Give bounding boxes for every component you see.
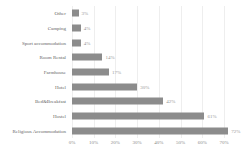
value-label: 14%	[105, 55, 114, 60]
value-label: 3%	[82, 11, 89, 16]
bar-row: 72%	[72, 123, 232, 138]
value-label: 61%	[207, 113, 216, 118]
x-tick-label: 20%	[111, 140, 120, 145]
bar	[72, 39, 81, 46]
bar-row: 30%	[72, 79, 232, 94]
bar	[72, 127, 228, 134]
bar-row: 17%	[72, 65, 232, 80]
category-label: Camping	[48, 26, 66, 31]
category-label: Room Rental	[39, 55, 66, 60]
bar-row: 4%	[72, 21, 232, 36]
bar-row: 4%	[72, 35, 232, 50]
bar	[72, 98, 163, 105]
bar-chart: 3%4%4%14%17%30%42%61%72% OtherCampingSpo…	[0, 0, 242, 161]
bar	[72, 83, 137, 90]
bar-row: 61%	[72, 109, 232, 124]
bar	[72, 54, 102, 61]
value-label: 30%	[140, 84, 149, 89]
category-label: Hotel	[55, 84, 66, 89]
x-tick-label: 0%	[69, 140, 76, 145]
x-tick-label: 10%	[89, 140, 98, 145]
category-label: Bed&Breakfast	[35, 99, 66, 104]
bar	[72, 24, 81, 31]
category-label: Farmhouse	[44, 70, 66, 75]
bar	[72, 68, 109, 75]
bar	[72, 10, 79, 17]
plot-area: 3%4%4%14%17%30%42%61%72%	[72, 6, 232, 138]
value-label: 72%	[231, 128, 240, 133]
value-label: 4%	[84, 25, 91, 30]
value-label: 4%	[84, 40, 91, 45]
bar	[72, 112, 204, 119]
x-tick-label: 60%	[198, 140, 207, 145]
x-tick-label: 70%	[219, 140, 228, 145]
category-label: Other	[55, 11, 66, 16]
x-tick-label: 40%	[154, 140, 163, 145]
bar-row: 14%	[72, 50, 232, 65]
category-axis: OtherCampingSport accommodationRoom Rent…	[0, 6, 68, 138]
value-label: 17%	[112, 69, 121, 74]
bar-row: 42%	[72, 94, 232, 109]
category-label: Religious Accommodation	[13, 128, 66, 133]
value-label: 42%	[166, 99, 175, 104]
bar-row: 3%	[72, 6, 232, 21]
x-axis: 0%10%20%30%40%50%60%70%	[72, 140, 232, 152]
x-tick-label: 30%	[133, 140, 142, 145]
category-label: Hostel	[53, 114, 66, 119]
category-label: Sport accommodation	[22, 40, 66, 45]
x-tick-label: 50%	[176, 140, 185, 145]
